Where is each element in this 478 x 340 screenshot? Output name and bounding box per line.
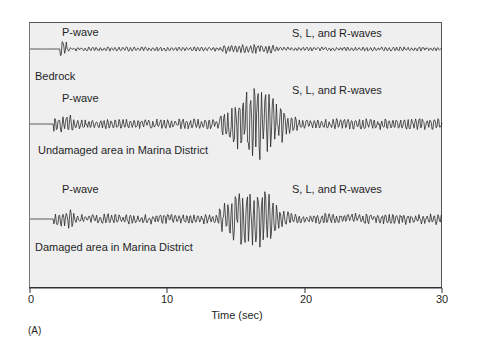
s-wave-label-damaged: S, L, and R-waves — [292, 183, 382, 195]
panel-label: (A) — [28, 325, 41, 336]
p-wave-label-bedrock: P-wave — [62, 26, 99, 38]
s-wave-label-bedrock: S, L, and R-waves — [292, 27, 382, 39]
trace-name-bedrock: Bedrock — [35, 70, 75, 82]
p-wave-label-undamaged: P-wave — [62, 92, 99, 104]
p-wave-label-damaged: P-wave — [62, 183, 99, 195]
seismogram-traces — [0, 0, 478, 340]
x-tick-label-20: 20 — [300, 293, 312, 305]
trace-bedrock — [30, 42, 442, 56]
x-axis-title: Time (sec) — [211, 309, 263, 321]
x-tick-label-0: 0 — [28, 293, 34, 305]
trace-name-undamaged: Undamaged area in Marina District — [38, 144, 208, 156]
x-tick-label-30: 30 — [436, 293, 448, 305]
trace-damaged — [30, 192, 442, 248]
x-tick-label-10: 10 — [161, 293, 173, 305]
s-wave-label-undamaged: S, L, and R-waves — [292, 84, 382, 96]
trace-name-damaged: Damaged area in Marina District — [35, 241, 193, 253]
